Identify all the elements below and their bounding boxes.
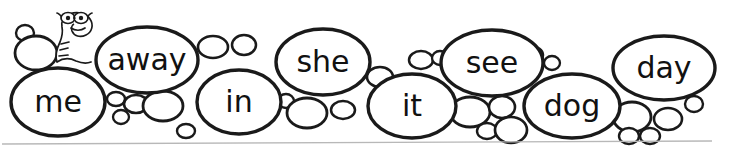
small-bubble <box>143 91 183 121</box>
small-bubble <box>544 56 560 70</box>
small-bubble <box>15 36 57 70</box>
small-bubble <box>685 96 703 112</box>
small-bubble <box>198 36 228 58</box>
word-label-me: me <box>34 84 82 119</box>
page-baseline-rule <box>2 141 712 144</box>
word-label-away: away <box>107 42 186 77</box>
bespectacled-snake-mascot-icon <box>56 13 92 64</box>
word-bubble-she[interactable]: she <box>276 29 370 95</box>
word-label-it: it <box>402 88 422 123</box>
small-bubble <box>409 51 433 69</box>
small-bubble <box>113 110 129 124</box>
sight-word-bubble-worksheet: meawayinsheitseedogday me away in she it… <box>0 0 733 150</box>
word-label-she: she <box>296 44 349 79</box>
small-bubble <box>495 117 527 143</box>
small-bubble <box>654 108 682 130</box>
small-bubble <box>107 92 125 106</box>
word-label-in: in <box>225 84 252 119</box>
bubble-illustration-canvas: meawayinsheitseedogday <box>0 0 733 150</box>
small-bubble <box>287 98 327 128</box>
word-label-day: day <box>636 50 691 85</box>
word-label-dog: dog <box>544 88 600 123</box>
word-label-see: see <box>466 45 519 80</box>
word-bubble-day[interactable]: day <box>613 36 715 100</box>
word-bubble-it[interactable]: it <box>368 74 456 138</box>
word-bubble-see[interactable]: see <box>441 30 543 96</box>
word-bubble-away[interactable]: away <box>96 27 198 93</box>
word-bubble-in[interactable]: in <box>197 70 281 134</box>
word-bubble-me[interactable]: me <box>11 68 105 136</box>
small-bubble <box>177 124 195 138</box>
small-bubble <box>489 96 515 118</box>
word-bubble-dog[interactable]: dog <box>524 74 620 138</box>
small-bubble <box>232 35 256 55</box>
small-bubble <box>331 101 355 119</box>
